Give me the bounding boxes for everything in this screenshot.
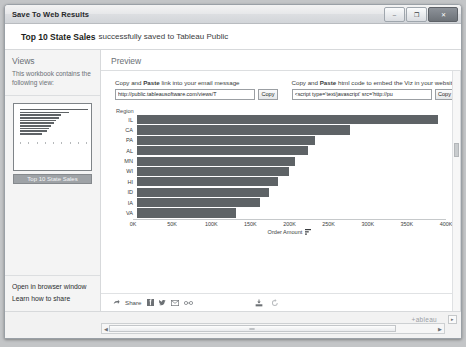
chart-row[interactable]: IA	[115, 198, 446, 207]
maximize-button[interactable]: ❐	[406, 7, 427, 22]
embed-copy-block: Copy and Paste html code to embed the Vi…	[292, 79, 455, 100]
chart-bar[interactable]	[137, 136, 315, 145]
save-to-web-results-window: Save To Web Results – ❐ ✕ Top 10 State S…	[4, 4, 462, 339]
chart-row[interactable]: IL	[115, 115, 446, 124]
axis-tick-label: 0K	[130, 221, 137, 227]
minimize-button[interactable]: –	[384, 7, 405, 22]
axis-tick-label: 100K	[205, 221, 218, 227]
share-arrow-icon[interactable]	[113, 299, 120, 306]
views-description: This workbook contains the following vie…	[12, 69, 93, 88]
view-thumbnail[interactable]	[13, 103, 92, 171]
chart-row[interactable]: HI	[115, 177, 446, 186]
chart-row[interactable]: VA	[115, 208, 446, 217]
chart-row[interactable]: MN	[115, 157, 446, 166]
axis-tick-label: 400K	[440, 221, 453, 227]
tableau-logo: +ableau	[412, 316, 437, 323]
footer-corner-button[interactable]: ▸	[448, 315, 457, 324]
chart-row[interactable]: PA	[115, 136, 446, 145]
share-toolbar: Share	[101, 293, 460, 311]
scroll-right-arrow[interactable]: ▶	[438, 326, 442, 332]
scroll-left-arrow[interactable]: ◀	[104, 326, 108, 332]
view-thumbnail-caption[interactable]: Top 10 State Sales	[13, 174, 92, 185]
thumbnail-chart	[20, 109, 88, 139]
chart-bar[interactable]	[137, 146, 308, 155]
copy-link-button[interactable]: Copy	[258, 89, 277, 100]
chart-row-label: MN	[115, 158, 137, 164]
chart-row-track	[137, 125, 446, 134]
learn-how-to-share-link[interactable]: Learn how to share	[12, 293, 93, 305]
download-icon[interactable]	[255, 299, 263, 307]
email-icon[interactable]	[171, 300, 179, 306]
chart-bar[interactable]	[137, 188, 269, 197]
chart-row-label: PA	[115, 137, 137, 143]
chart-axis-title: Order Amount	[133, 229, 446, 236]
link-copy-label: Copy and Paste link into your email mess…	[115, 79, 278, 86]
window-controls: – ❐ ✕	[384, 7, 458, 22]
chart-row[interactable]: ID	[115, 188, 446, 197]
dialog-footer: +ableau ◀ ▶ ▸	[5, 311, 461, 338]
sidebar-links: Open in browser window Learn how to shar…	[5, 275, 100, 311]
preview-pane: Preview Copy and Paste link into your em…	[101, 50, 461, 311]
chart-row[interactable]: CA	[115, 125, 446, 134]
chart-row-label: WI	[115, 168, 137, 174]
chart-row-track	[137, 157, 446, 166]
chart-bar[interactable]	[137, 167, 289, 176]
embed-code-input[interactable]	[292, 89, 432, 100]
chart-row-track	[137, 115, 446, 124]
chart-bar[interactable]	[137, 125, 350, 134]
chart-row[interactable]: AL	[115, 146, 446, 155]
chart-bar[interactable]	[137, 177, 278, 186]
axis-tick-label: 250K	[322, 221, 335, 227]
axis-tick-label: 350K	[401, 221, 414, 227]
window-title: Save To Web Results	[12, 10, 89, 19]
chart-bar[interactable]	[137, 198, 260, 207]
viz-vertical-scroll-thumb[interactable]	[454, 143, 459, 157]
chart-row[interactable]: WI	[115, 167, 446, 176]
views-sidebar-header: Views This workbook contains the followi…	[5, 50, 100, 90]
view-thumbnail-wrap[interactable]: Top 10 State Sales	[13, 103, 92, 185]
copy-row: Copy and Paste link into your email mess…	[101, 71, 460, 100]
horizontal-scroll-thumb[interactable]	[109, 325, 396, 332]
chart-axis-ticks: 0K50K100K150K200K250K300K350K400K	[133, 220, 446, 229]
embed-copy-controls: Copy	[292, 89, 455, 100]
share-label[interactable]: Share	[125, 299, 142, 306]
link-copy-controls: Copy	[115, 89, 278, 100]
sidebar-divider	[5, 95, 100, 96]
views-title: Views	[12, 56, 93, 66]
viz-vertical-scrollbar[interactable]	[452, 71, 460, 311]
chart-row-header: Region	[115, 108, 446, 114]
twitter-icon[interactable]	[159, 299, 166, 306]
chart-row-label: IA	[115, 200, 137, 206]
chart-rows: ILCAPAALMNWIHIIDIAVA	[115, 115, 446, 218]
link-copy-block: Copy and Paste link into your email mess…	[115, 79, 278, 100]
axis-tick-label: 150K	[244, 221, 257, 227]
facebook-icon[interactable]	[147, 299, 154, 306]
close-button[interactable]: ✕	[428, 7, 458, 22]
chart-bar[interactable]	[137, 157, 295, 166]
sidebar-spacer	[5, 184, 100, 275]
sort-descending-icon[interactable]	[305, 229, 311, 236]
open-in-browser-link[interactable]: Open in browser window	[12, 281, 93, 293]
chart-row-label: AL	[115, 148, 137, 154]
chart-row-label: ID	[115, 189, 137, 195]
chart-bar[interactable]	[137, 115, 438, 124]
link-icon[interactable]	[184, 300, 193, 306]
viz-frame: Copy and Paste link into your email mess…	[101, 71, 461, 311]
bar-chart: Region ILCAPAALMNWIHIIDIAVA 0K50K100K150…	[115, 108, 446, 293]
horizontal-scrollbar[interactable]: ◀ ▶	[101, 323, 445, 334]
chart-row-label: HI	[115, 179, 137, 185]
chart-row-track	[137, 208, 446, 217]
screenshot-root: Save To Web Results – ❐ ✕ Top 10 State S…	[0, 0, 466, 347]
success-message: Top 10 State Sales successfully saved to…	[5, 24, 461, 50]
chart-row-track	[137, 198, 446, 207]
chart-bar[interactable]	[137, 208, 236, 217]
views-sidebar: Views This workbook contains the followi…	[5, 50, 101, 311]
axis-tick-label: 200K	[283, 221, 296, 227]
embed-copy-label: Copy and Paste html code to embed the Vi…	[292, 79, 455, 86]
chart-row-track	[137, 146, 446, 155]
preview-title: Preview	[101, 50, 461, 70]
link-url-input[interactable]	[115, 89, 255, 100]
window-titlebar[interactable]: Save To Web Results – ❐ ✕	[5, 5, 461, 24]
chart-row-track	[137, 136, 446, 145]
revert-icon[interactable]	[271, 299, 279, 307]
